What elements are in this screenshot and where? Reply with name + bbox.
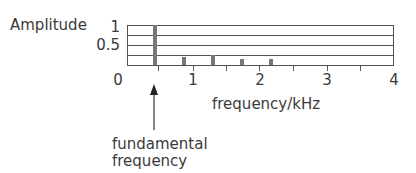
annotation-line-1: fundamental (112, 137, 208, 152)
annotation-line-2: frequency (112, 154, 187, 169)
arrow-icon (0, 0, 416, 173)
